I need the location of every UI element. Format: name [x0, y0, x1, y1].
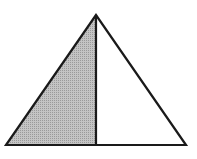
diagram-canvas [0, 0, 197, 159]
triangle-diagram [0, 0, 197, 159]
